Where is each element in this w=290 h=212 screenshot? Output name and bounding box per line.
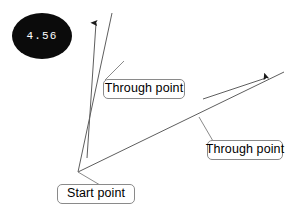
steep-direction-arrow (87, 23, 96, 158)
callout-through-point-2[interactable]: Through point (207, 140, 283, 160)
callout-through-point-1-label: Through point (104, 82, 184, 96)
callout-through-point-2-label: Through point (205, 143, 285, 157)
callout-start-point-label: Start point (66, 187, 126, 201)
callout-start-point[interactable]: Start point (57, 184, 135, 204)
dimension-value: 4.56 (26, 31, 57, 42)
leader-through-2 (199, 117, 213, 141)
callout-through-point-1[interactable]: Through point (103, 79, 185, 99)
leader-through-1 (105, 61, 124, 80)
dimension-bubble: 4.56 (12, 13, 72, 59)
